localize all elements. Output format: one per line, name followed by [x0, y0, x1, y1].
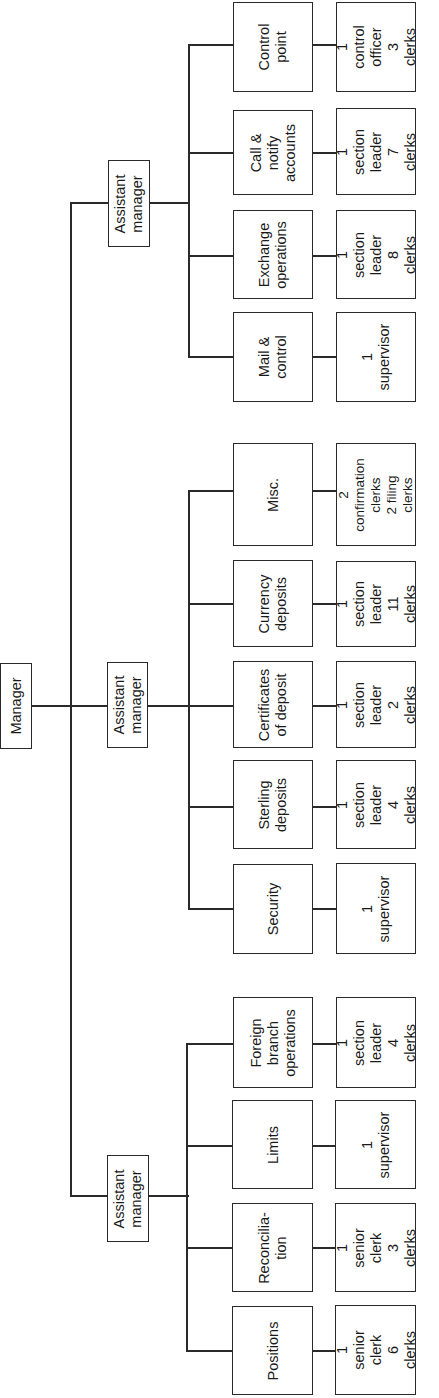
unit-box-foreign-branch-operations: Foreign branch operations [233, 997, 313, 1088]
staff-box-currency-deposits: 1 section leader 11 clerks [336, 561, 416, 647]
unit-name: Call & notify accounts [248, 123, 299, 181]
staff-box-reconciliation: 1 senior clerk 3 clerks [335, 1203, 416, 1292]
connector-unit [188, 603, 234, 605]
unit-name: Misc. [265, 478, 282, 512]
assistant-manager-box-2: Assistant manager [107, 662, 148, 748]
connector-am1-branch-vertical [186, 1043, 188, 1350]
connector-staff [312, 490, 337, 492]
connector-unit [188, 356, 234, 358]
staff-text: 1 section leader 2 clerks [334, 682, 419, 728]
connector-am2-branch-vertical [188, 490, 190, 908]
staff-text: 1 supervisor [359, 1111, 393, 1178]
unit-name: Certificates of deposit [256, 668, 290, 741]
unit-box-currency-deposits: Currency deposits [233, 560, 313, 647]
staff-box-positions: 1 senior clerk 6 clerks [335, 1305, 416, 1395]
assistant-manager-box-1: Assistant manager [107, 1155, 149, 1242]
staff-box-certificates-of-deposit: 1 section leader 2 clerks [336, 661, 416, 748]
staff-text: 1 supervisor [359, 324, 393, 391]
connector-am3-branch-vertical [188, 44, 190, 357]
unit-name: Mail & control [256, 335, 290, 379]
unit-name: Currency deposits [256, 574, 290, 633]
connector-staff [312, 908, 337, 910]
connector-trunk-am1 [70, 1195, 108, 1197]
unit-name: Reconcilia- tion [256, 1212, 290, 1284]
connector-unit [186, 1350, 234, 1352]
staff-box-limits: 1 supervisor [335, 1100, 416, 1189]
unit-box-limits: Limits [232, 1100, 313, 1189]
assistant-manager-box-3: Assistant manager [108, 160, 150, 247]
unit-box-positions: Positions [232, 1306, 313, 1395]
unit-box-exchange-operations: Exchange operations [233, 210, 313, 299]
unit-box-reconciliation: Reconcilia- tion [232, 1203, 313, 1292]
connector-am2-branch [147, 705, 189, 707]
connector-trunk-am2 [70, 705, 108, 707]
connector-main-trunk [70, 202, 72, 1197]
staff-box-security: 1 supervisor [336, 863, 416, 954]
unit-name: Foreign branch operations [248, 1009, 299, 1077]
staff-text: 2 confirmation clerks 2 filing clerks [336, 458, 416, 532]
connector-am3-branch [149, 202, 189, 204]
connector-unit [188, 255, 234, 257]
connector-staff [312, 356, 337, 358]
assistant-manager-label: Assistant manager [112, 174, 146, 233]
unit-name: Limits [264, 1126, 281, 1164]
connector-am1-branch [148, 1195, 189, 1197]
connector-unit [186, 1043, 234, 1045]
staff-box-call-notify-accounts: 1 section leader 7 clerks [336, 108, 416, 195]
staff-text: 1 section leader 8 clerks [334, 232, 419, 278]
staff-text: 1 section leader 4 clerks [334, 1020, 419, 1066]
connector-staff [312, 1145, 337, 1147]
unit-box-misc: Misc. [233, 443, 313, 546]
manager-label: Manager [8, 677, 25, 734]
staff-text: 1 section leader 4 clerks [334, 782, 419, 828]
manager-box: Manager [0, 663, 32, 749]
staff-text: 1 section leader 11 clerks [334, 581, 419, 627]
unit-box-security: Security [233, 864, 313, 954]
staff-text: 1 section leader 7 clerks [334, 129, 419, 175]
connector-unit [188, 908, 234, 910]
staff-text: 1 control officer 3 clerks [334, 25, 419, 69]
connector-unit [188, 705, 234, 707]
unit-name: Exchange operations [256, 221, 290, 289]
staff-box-sterling-deposits: 1 section leader 4 clerks [336, 760, 416, 849]
unit-box-control-point: Control point [233, 2, 313, 92]
assistant-manager-label: Assistant manager [111, 1169, 145, 1228]
staff-text: 1 supervisor [359, 875, 393, 942]
connector-unit [188, 44, 234, 46]
connector-unit [186, 1145, 234, 1147]
connector-manager-trunk [31, 705, 71, 707]
assistant-manager-label: Assistant manager [111, 676, 145, 735]
unit-name: Positions [264, 1321, 281, 1380]
unit-name: Control point [256, 24, 290, 71]
staff-box-misc: 2 confirmation clerks 2 filing clerks [336, 443, 416, 546]
connector-unit [188, 490, 234, 492]
staff-box-control-point: 1 control officer 3 clerks [336, 2, 416, 92]
unit-name: Sterling deposits [256, 777, 290, 831]
unit-box-sterling-deposits: Sterling deposits [233, 760, 313, 849]
unit-box-call-notify-accounts: Call & notify accounts [233, 110, 313, 195]
unit-box-certificates-of-deposit: Certificates of deposit [233, 661, 313, 748]
connector-trunk-am3 [70, 202, 108, 204]
unit-name: Security [265, 883, 282, 935]
connector-unit [188, 152, 234, 154]
staff-text: 1 senior clerk 6 clerks [333, 1330, 418, 1370]
staff-box-exchange-operations: 1 section leader 8 clerks [336, 210, 416, 299]
connector-unit [186, 1247, 234, 1249]
unit-box-mail-control: Mail & control [233, 312, 313, 402]
staff-box-foreign-branch-operations: 1 section leader 4 clerks [336, 997, 416, 1088]
connector-unit [188, 806, 234, 808]
staff-text: 1 senior clerk 3 clerks [333, 1228, 418, 1268]
staff-box-mail-control: 1 supervisor [336, 312, 416, 402]
